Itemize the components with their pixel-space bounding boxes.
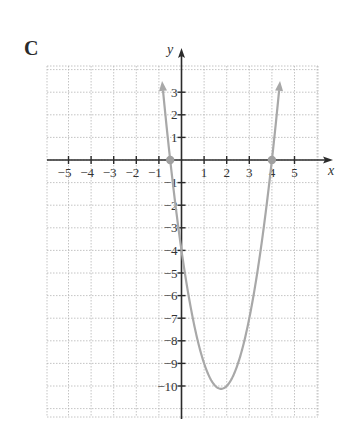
- x-tick-label: −2: [125, 165, 139, 180]
- x-tick-label: −3: [103, 165, 117, 180]
- x-tick-label: −4: [80, 165, 94, 180]
- y-tick-label: −5: [164, 266, 178, 281]
- x-tick-label: 5: [291, 165, 298, 180]
- y-tick-label: 1: [171, 130, 178, 145]
- y-tick-label: −10: [157, 379, 177, 394]
- y-tick-label: −9: [164, 356, 178, 371]
- y-axis-label: y: [165, 42, 174, 57]
- curve-arrow-right-icon: [275, 81, 283, 91]
- y-tick-label: −4: [164, 243, 178, 258]
- x-tick-label: −5: [58, 165, 72, 180]
- x-tick-label: 1: [201, 165, 208, 180]
- coordinate-plane: xy −5−4−3−2−112345321−1−2−3−4−5−6−7−8−9−…: [0, 0, 343, 446]
- curve-arrow-left-icon: [159, 81, 167, 91]
- y-tick-label: −7: [164, 311, 178, 326]
- parabola-path: [163, 90, 279, 389]
- axes: xy: [47, 42, 335, 419]
- parabola-curve: [159, 81, 283, 389]
- x-axis-label: x: [327, 163, 335, 178]
- x-tick-label: 2: [223, 165, 230, 180]
- y-tick-label: −3: [164, 220, 178, 235]
- y-tick-label: 3: [171, 85, 178, 100]
- y-tick-label: −8: [164, 333, 178, 348]
- intercept-point: [166, 156, 174, 164]
- y-tick-label: −6: [164, 288, 178, 303]
- intercept-point: [268, 156, 276, 164]
- x-tick-label: 3: [246, 165, 253, 180]
- x-tick-label: −1: [148, 165, 162, 180]
- y-tick-label: −1: [164, 175, 178, 190]
- y-tick-label: 2: [171, 107, 178, 122]
